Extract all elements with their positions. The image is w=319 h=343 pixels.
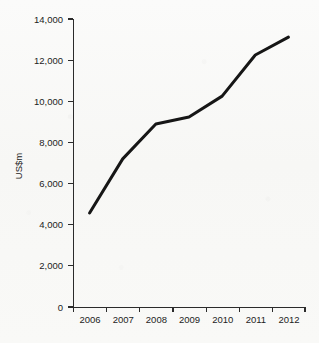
y-tick-label-10000: 10,000 (34, 96, 63, 107)
line-chart-figure: US$m 14,000 12,000 10,000 8,000 6,000 4,… (0, 0, 319, 343)
x-tick-label-2009: 2009 (179, 314, 200, 325)
x-tick-label-2011: 2011 (246, 314, 266, 325)
y-tick-label-2000: 2,000 (39, 260, 63, 271)
chart-canvas: US$m 14,000 12,000 10,000 8,000 6,000 4,… (0, 0, 319, 343)
y-tick-label-0: 0 (58, 302, 63, 313)
y-tick-label-14000: 14,000 (34, 14, 63, 25)
y-tick-label-6000: 6,000 (39, 178, 63, 189)
y-tick-label-8000: 8,000 (39, 137, 63, 148)
data-series-line (90, 37, 289, 213)
x-tick-label-2010: 2010 (212, 314, 233, 325)
x-tick-label-2008: 2008 (146, 314, 167, 325)
x-tick-label-2006: 2006 (80, 314, 101, 325)
y-tick-label-12000: 12,000 (34, 55, 63, 66)
x-tick-label-2007: 2007 (113, 314, 134, 325)
x-tick-label-2012: 2012 (278, 314, 299, 325)
y-tick-label-4000: 4,000 (39, 219, 63, 230)
y-axis-title: US$m (13, 153, 24, 179)
